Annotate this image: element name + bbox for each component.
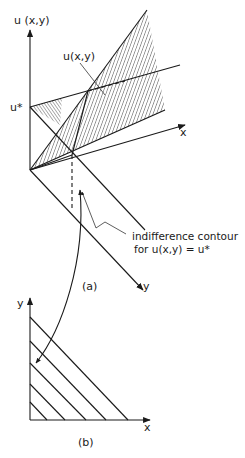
utility-surface bbox=[30, 10, 165, 170]
u-axis-label: u (x,y) bbox=[14, 14, 50, 27]
contour-line bbox=[30, 384, 65, 420]
indifference-contour-diagram: u (x,y) u* u(x,y) x y indifference conto… bbox=[0, 0, 245, 458]
figure-a: u (x,y) u* u(x,y) x y indifference conto… bbox=[10, 10, 239, 293]
contour-label-pointer bbox=[82, 192, 126, 234]
y-axis bbox=[30, 170, 143, 290]
mapping-arrow bbox=[36, 190, 81, 363]
b-y-axis-label: y bbox=[17, 297, 24, 310]
caption-b: (b) bbox=[78, 436, 94, 449]
contour-line bbox=[30, 402, 47, 420]
surface-label: u(x,y) bbox=[63, 50, 95, 63]
y-axis-label: y bbox=[143, 280, 150, 293]
figure-b: y x (b) bbox=[17, 297, 151, 449]
u-star-label: u* bbox=[10, 101, 23, 114]
contour-line bbox=[30, 341, 106, 420]
contour-line bbox=[30, 317, 128, 420]
contour-label-line2: for u(x,y) = u* bbox=[134, 243, 210, 255]
x-axis-label: x bbox=[180, 126, 187, 139]
contour-label-line1: indifference contour bbox=[132, 230, 239, 242]
b-x-axis-label: x bbox=[144, 421, 151, 434]
caption-a: (a) bbox=[82, 280, 97, 293]
